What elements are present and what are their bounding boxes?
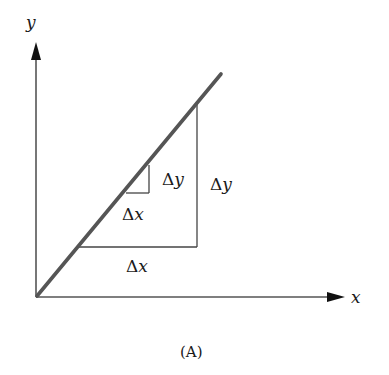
x-axis-label: x: [351, 289, 361, 306]
small-dx-label: Δx: [122, 206, 144, 223]
large-dx-label: Δx: [126, 258, 148, 275]
y-axis-arrowhead: [31, 42, 41, 60]
y-axis-label: y: [26, 14, 36, 31]
slope-diagram: [0, 0, 389, 375]
x-axis-arrowhead: [327, 292, 345, 302]
figure-caption: (A): [180, 345, 203, 360]
large-dy-label: Δy: [210, 176, 232, 193]
small-dy-label: Δy: [162, 171, 184, 188]
